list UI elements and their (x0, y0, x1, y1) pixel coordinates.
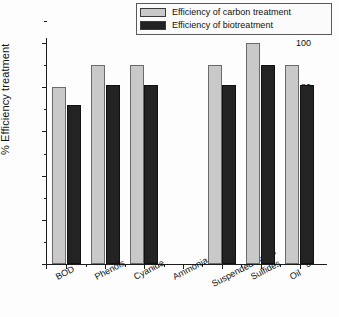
bar-carbon (285, 65, 299, 264)
y-tick-minor (44, 65, 47, 66)
y-tick-major (42, 220, 47, 221)
y-tick-major (42, 43, 47, 44)
x-tick-label: Ammonia (171, 255, 209, 282)
bar-carbon (130, 65, 144, 264)
y-tick-major (42, 131, 47, 132)
y-tick-major (42, 176, 47, 177)
bar-carbon (208, 65, 222, 264)
x-tick-label: BOD (54, 264, 76, 282)
legend-label-carbon: Efficiency of carbon treatment (172, 7, 291, 17)
chart-figure: Efficiency of carbon treatment Efficienc… (0, 0, 339, 317)
x-tick-minor (86, 264, 87, 267)
y-tick-major (42, 264, 47, 265)
y-tick-minor (44, 109, 47, 110)
bar-bio (106, 85, 120, 264)
x-tick-major (300, 264, 301, 269)
bar-bio (144, 85, 158, 264)
bar-bio (300, 85, 314, 264)
bar-carbon (246, 43, 260, 264)
y-tick-minor (44, 154, 47, 155)
x-tick-label: Oil (288, 268, 302, 282)
plot-area: 020406080100BODPhenolsCyanideAmmoniaSusp… (47, 43, 319, 264)
legend-item-carbon-treatment: Efficiency of carbon treatment (140, 6, 328, 18)
y-axis-title: % Efficiency treatment (0, 44, 11, 155)
y-tick-minor (44, 242, 47, 243)
legend-swatch-icon-bio (140, 21, 166, 30)
y-tick-minor (44, 198, 47, 199)
y-tick-label: 100 (296, 38, 311, 48)
chart-legend: Efficiency of carbon treatment Efficienc… (136, 3, 332, 35)
legend-label-bio: Efficiency of biotreatment (172, 20, 273, 30)
x-tick-major (222, 264, 223, 269)
bar-carbon (91, 65, 105, 264)
legend-item-biotreatment: Efficiency of biotreatment (140, 19, 328, 31)
bar-bio (67, 105, 81, 264)
bar-bio (261, 65, 275, 264)
legend-swatch-icon-carbon (140, 8, 166, 17)
y-tick-major (42, 87, 47, 88)
y-tick-minor (44, 21, 47, 22)
bar-bio (222, 85, 236, 264)
bar-carbon (52, 87, 66, 264)
